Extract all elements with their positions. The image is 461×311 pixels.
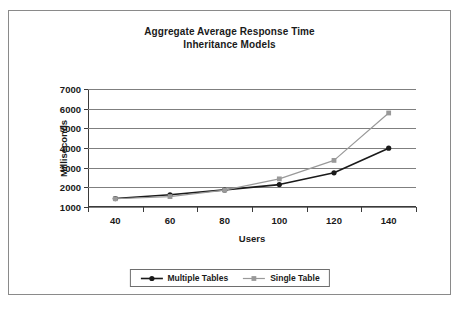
x-tick-label-140: 140: [381, 215, 397, 226]
data-point-100: [277, 182, 282, 187]
series-line: [115, 113, 388, 199]
plot-area: 1000200030004000500060007000 40608010012…: [88, 89, 416, 207]
data-point-140: [386, 146, 391, 151]
data-point-140: [386, 111, 391, 116]
y-tick-label-3000: 3000: [60, 162, 81, 173]
x-tick-mark-5: [361, 207, 362, 212]
legend-marker-icon: [139, 274, 163, 283]
x-tick-label-100: 100: [271, 215, 287, 226]
series-multiple-tables: [113, 146, 392, 202]
series-layer: [88, 89, 416, 207]
chart-legend: Multiple TablesSingle Table: [129, 269, 329, 287]
chart-title: Aggregate Average Response Time Inherita…: [9, 25, 450, 51]
legend-label: Multiple Tables: [167, 273, 228, 283]
x-tick-label-120: 120: [326, 215, 342, 226]
figure-frame: Aggregate Average Response Time Inherita…: [8, 10, 451, 295]
legend-marker-icon: [242, 274, 266, 283]
legend-entry-single-table[interactable]: Single Table: [242, 273, 319, 283]
x-tick-mark-3: [252, 207, 253, 212]
data-point-100: [277, 176, 282, 181]
x-tick-mark-0: [88, 207, 89, 212]
chart-title-line-1: Aggregate Average Response Time: [9, 25, 450, 38]
y-tick-label-7000: 7000: [60, 84, 81, 95]
x-tick-mark-6: [416, 207, 417, 212]
data-point-60: [168, 194, 173, 199]
x-tick-label-60: 60: [165, 215, 176, 226]
y-tick-label-4000: 4000: [60, 143, 81, 154]
x-tick-label-40: 40: [110, 215, 121, 226]
x-tick-mark-2: [197, 207, 198, 212]
data-point-40: [113, 196, 118, 201]
data-point-120: [331, 170, 336, 175]
data-point-80: [222, 188, 227, 193]
data-point-120: [332, 158, 337, 163]
y-tick-label-5000: 5000: [60, 123, 81, 134]
legend-label: Single Table: [270, 273, 319, 283]
x-tick-mark-1: [143, 207, 144, 212]
x-tick-label-80: 80: [219, 215, 230, 226]
chart-title-line-2: Inheritance Models: [9, 38, 450, 51]
x-tick-mark-4: [307, 207, 308, 212]
y-tick-label-2000: 2000: [60, 182, 81, 193]
legend-entry-multiple-tables[interactable]: Multiple Tables: [139, 273, 228, 283]
y-tick-label-6000: 6000: [60, 103, 81, 114]
x-axis-label: Users: [88, 233, 416, 244]
y-tick-label-1000: 1000: [60, 202, 81, 213]
series-line: [115, 148, 388, 198]
